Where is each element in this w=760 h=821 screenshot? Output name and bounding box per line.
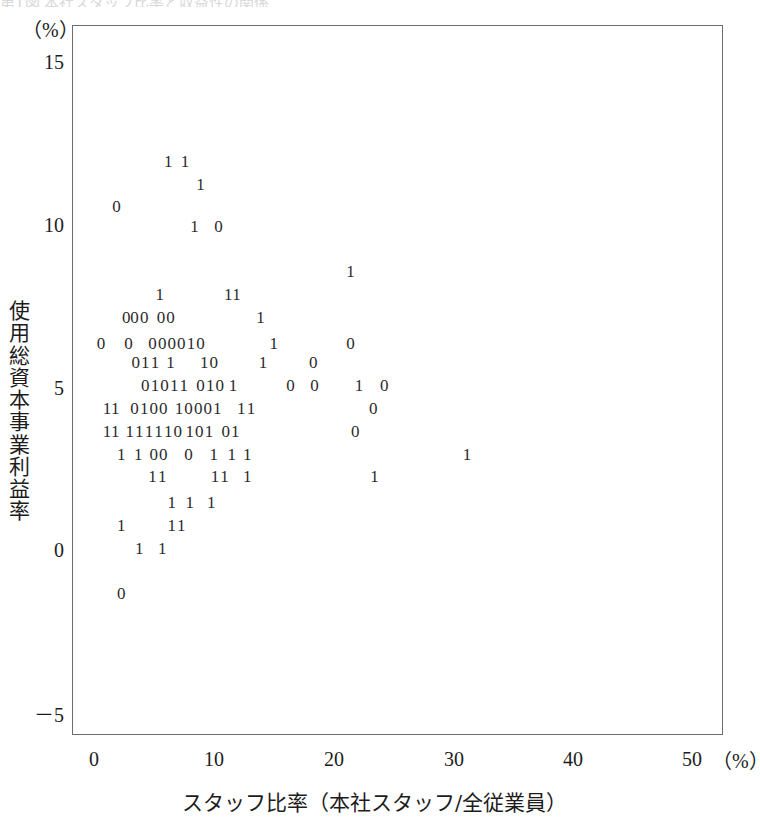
data-point: 1 <box>177 517 186 534</box>
data-point: 1 <box>232 286 241 303</box>
data-point: 1 <box>140 399 149 416</box>
x-tick-30: 30 <box>424 748 484 771</box>
data-point: 0 <box>159 445 168 462</box>
x-tick-0: 0 <box>64 748 124 771</box>
x-axis-unit-label: （%） <box>712 745 760 774</box>
data-point: 1 <box>220 468 229 485</box>
data-point: 0 <box>166 308 175 325</box>
data-point: 1 <box>166 354 175 371</box>
data-point: 1 <box>103 422 112 439</box>
data-point: 1 <box>164 422 173 439</box>
data-point: 0 <box>369 399 378 416</box>
data-point: 0 <box>174 422 183 439</box>
data-point: 1 <box>346 263 355 280</box>
y-tick-10: 10 <box>16 214 64 237</box>
data-point: 0 <box>140 308 149 325</box>
data-point: 1 <box>228 445 237 462</box>
data-point: 0 <box>351 422 360 439</box>
data-point: 0 <box>124 334 133 351</box>
data-point: 0 <box>380 377 389 394</box>
data-point: 0 <box>310 377 319 394</box>
data-point: 1 <box>213 399 222 416</box>
data-point: 1 <box>205 422 214 439</box>
data-point: 0 <box>177 334 186 351</box>
plot-frame: 1110101111000001000000101001111010010110… <box>72 25 723 735</box>
data-point: 1 <box>154 422 163 439</box>
data-point: 1 <box>187 334 196 351</box>
data-point: 1 <box>170 377 179 394</box>
cropped-caption-sliver: 第1図 本社スタッフ比率と収益性の関係 <box>0 0 749 7</box>
data-point: 1 <box>211 468 220 485</box>
data-point: 0 <box>346 334 355 351</box>
data-point: 1 <box>111 399 120 416</box>
data-point: 1 <box>148 468 157 485</box>
data-point: 0 <box>122 308 131 325</box>
data-point: 1 <box>117 445 126 462</box>
data-point: 1 <box>247 399 256 416</box>
data-point: 1 <box>164 152 173 169</box>
y-tick-0: 0 <box>16 539 64 562</box>
data-point: 0 <box>204 399 213 416</box>
data-point: 1 <box>111 422 120 439</box>
data-point: 1 <box>224 286 233 303</box>
data-point: 1 <box>145 422 154 439</box>
data-point: 1 <box>141 354 150 371</box>
data-point: 0 <box>141 377 150 394</box>
y-tick-minus-5: －5 <box>16 699 64 728</box>
data-point: 0 <box>196 377 205 394</box>
data-point: 1 <box>156 286 165 303</box>
data-point: 1 <box>355 377 364 394</box>
data-point: 0 <box>150 399 159 416</box>
data-point: 0 <box>150 445 159 462</box>
data-point: 1 <box>243 445 252 462</box>
plot-area: 1110101111000001000000101001111010010110… <box>73 26 722 734</box>
data-point: 1 <box>186 422 195 439</box>
data-point: 0 <box>148 334 157 351</box>
data-point: 1 <box>229 377 238 394</box>
data-point: 1 <box>151 377 160 394</box>
data-point: 1 <box>237 399 246 416</box>
data-point: 1 <box>256 308 265 325</box>
data-point: 0 <box>112 198 121 215</box>
data-point: 0 <box>159 399 168 416</box>
data-point: 0 <box>184 399 193 416</box>
data-point: 1 <box>117 517 126 534</box>
y-tick-15: 15 <box>16 51 64 74</box>
data-point: 0 <box>222 422 231 439</box>
x-axis-title: スタッフ比率（本社スタッフ/全従業員） <box>0 786 749 816</box>
data-point: 1 <box>231 422 240 439</box>
data-point: 1 <box>103 399 112 416</box>
data-point: 1 <box>181 152 190 169</box>
data-point: 0 <box>130 308 139 325</box>
data-point: 1 <box>270 334 279 351</box>
data-point: 1 <box>210 445 219 462</box>
data-point: 1 <box>200 354 209 371</box>
data-point: 1 <box>186 494 195 511</box>
data-point: 0 <box>132 354 141 371</box>
data-point: 1 <box>151 354 160 371</box>
data-point: 0 <box>97 334 106 351</box>
y-tick-5: 5 <box>16 377 64 400</box>
data-point: 0 <box>194 399 203 416</box>
data-point: 0 <box>160 377 169 394</box>
data-point: 1 <box>463 445 472 462</box>
data-point: 1 <box>175 399 184 416</box>
data-point: 0 <box>195 422 204 439</box>
data-point: 1 <box>168 494 177 511</box>
data-point: 1 <box>126 422 135 439</box>
data-point: 0 <box>168 334 177 351</box>
data-point: 0 <box>214 217 223 234</box>
data-point: 1 <box>158 539 167 556</box>
data-point: 0 <box>210 354 219 371</box>
data-point: 1 <box>158 468 167 485</box>
data-point: 0 <box>286 377 295 394</box>
data-point: 0 <box>216 377 225 394</box>
x-tick-20: 20 <box>304 748 364 771</box>
data-point: 1 <box>370 468 379 485</box>
data-point: 0 <box>196 334 205 351</box>
data-point: 1 <box>168 517 177 534</box>
data-point: 0 <box>309 354 318 371</box>
x-tick-10: 10 <box>184 748 244 771</box>
data-point: 1 <box>243 468 252 485</box>
